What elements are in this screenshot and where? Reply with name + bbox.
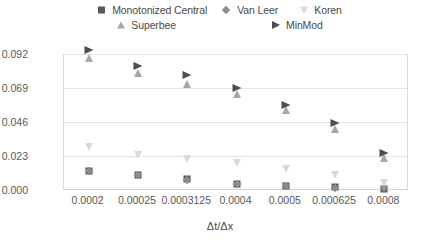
x-axis-tick-label: 0.0004 — [219, 194, 251, 206]
legend-item-van-leer[interactable]: Van Leer — [223, 4, 278, 16]
data-point — [332, 185, 338, 191]
scatter-chart: Monotonized Central Van Leer Koren Super… — [0, 0, 440, 243]
legend-label-superbee: Superbee — [131, 19, 176, 31]
data-point — [331, 119, 340, 127]
triangle-up-marker-icon — [117, 20, 126, 31]
data-point — [133, 62, 142, 70]
x-axis-tick-label: 0.0005 — [269, 194, 301, 206]
gridline — [64, 156, 407, 157]
data-point — [85, 54, 93, 62]
triangle-right-marker-icon — [272, 20, 281, 31]
x-axis-tick-label: 0.0008 — [367, 194, 399, 206]
x-axis-title: Δt/Δx — [0, 220, 440, 232]
legend-item-koren[interactable]: Koren — [300, 4, 342, 16]
chart-legend: Monotonized Central Van Leer Koren Super… — [0, 4, 440, 31]
data-point — [281, 101, 290, 109]
y-axis-tick-label: 0.069 — [0, 82, 28, 94]
data-point — [86, 168, 92, 174]
data-point — [184, 177, 190, 183]
data-point — [183, 80, 191, 88]
data-point — [233, 159, 241, 167]
legend-item-monotonized-central[interactable]: Monotonized Central — [98, 4, 207, 16]
data-point — [84, 46, 93, 54]
legend-row-1: Monotonized Central Van Leer Koren — [98, 4, 342, 16]
y-axis-tick-label: 0.000 — [0, 184, 28, 196]
triangle-down-marker-icon — [300, 5, 309, 16]
data-point — [283, 183, 289, 189]
data-point — [234, 181, 240, 187]
legend-label-minmod: MinMod — [286, 19, 323, 31]
data-point — [183, 155, 191, 163]
x-axis-tick-label: 0.0002 — [72, 194, 104, 206]
square-marker-icon — [98, 5, 107, 16]
x-axis-tick-label: 0.0003125 — [161, 194, 211, 206]
y-axis-tick-label: 0.023 — [0, 150, 28, 162]
y-axis-tick-label: 0.092 — [0, 48, 28, 60]
data-point — [380, 179, 388, 187]
gridline — [64, 54, 407, 55]
data-point — [134, 151, 142, 159]
data-point — [85, 143, 93, 151]
data-point — [380, 149, 389, 157]
legend-row-2: Superbee MinMod — [117, 19, 323, 31]
gridline — [64, 122, 407, 123]
x-axis-tick-label: 0.000625 — [312, 194, 356, 206]
legend-item-superbee[interactable]: Superbee — [117, 19, 176, 31]
y-axis-tick-label: 0.046 — [0, 116, 28, 128]
data-point — [183, 71, 192, 79]
legend-label-van-leer: Van Leer — [237, 4, 278, 16]
x-axis-tick-label: 0.00025 — [118, 194, 156, 206]
x-axis-line — [64, 189, 407, 190]
diamond-marker-icon — [223, 5, 232, 16]
legend-label-koren: Koren — [314, 4, 342, 16]
data-point — [134, 69, 142, 77]
data-point — [135, 172, 141, 178]
data-point — [232, 84, 241, 92]
legend-label-monotonized-central: Monotonized Central — [112, 4, 207, 16]
legend-item-minmod[interactable]: MinMod — [272, 19, 323, 31]
data-point — [331, 171, 339, 179]
data-point — [282, 165, 290, 173]
plot-area — [63, 54, 408, 190]
